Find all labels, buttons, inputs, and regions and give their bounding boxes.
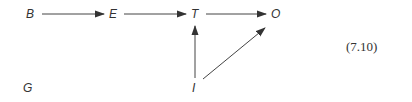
- node-t: T: [191, 7, 200, 21]
- node-o: O: [271, 7, 280, 21]
- edge-i-to-o: [203, 28, 265, 79]
- causal-diagram: B E T O G I (7.10): [0, 0, 412, 102]
- equation-number: (7.10): [346, 39, 377, 54]
- node-b: B: [26, 7, 34, 21]
- node-e: E: [109, 7, 118, 21]
- node-g: G: [23, 81, 32, 95]
- node-i: I: [192, 81, 196, 95]
